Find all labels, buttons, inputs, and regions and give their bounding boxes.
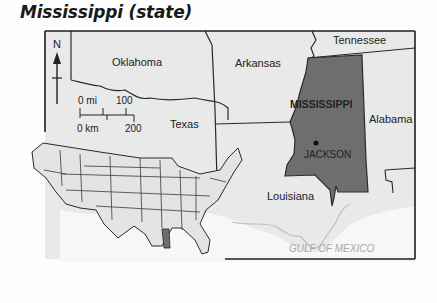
svg-text:200: 200 [125, 123, 142, 134]
label-tennessee: Tennessee [333, 34, 386, 46]
label-oklahoma: Oklahoma [112, 56, 163, 68]
capital-marker [314, 141, 319, 146]
svg-text:100: 100 [116, 95, 133, 106]
label-texas: Texas [170, 118, 199, 130]
label-mississippi: MISSISSIPPI [290, 98, 353, 110]
svg-text:0 mi: 0 mi [78, 95, 97, 106]
label-louisiana: Louisiana [267, 190, 315, 202]
label-arkansas: Arkansas [235, 57, 281, 69]
label-jackson: JACKSON [304, 149, 351, 160]
label-gulf: GULF OF MEXICO [289, 243, 374, 254]
svg-text:0 km: 0 km [77, 123, 99, 134]
mississippi-map: N 0 mi 100 0 km 200 Oklahoma Arkansas Te… [0, 0, 437, 303]
label-alabama: Alabama [369, 113, 413, 125]
svg-text:N: N [53, 38, 61, 50]
